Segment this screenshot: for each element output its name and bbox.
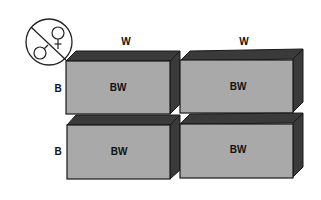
male-female-symbol-icon — [26, 19, 72, 65]
cell-box: BW — [180, 113, 303, 178]
column-header: W — [121, 36, 131, 47]
cell-box: BW — [66, 51, 180, 114]
row-header: B — [54, 146, 61, 157]
column-header: W — [239, 36, 249, 47]
cell-label: BW — [230, 144, 247, 155]
cell-box: BW — [180, 49, 303, 113]
punnett-square-diagram: W W B B BW BW BW BW — [0, 0, 321, 200]
cell-box: BW — [67, 115, 180, 179]
cell-label: BW — [110, 82, 127, 93]
cell-label: BW — [230, 81, 247, 92]
row-header: B — [54, 83, 61, 94]
cell-label: BW — [111, 146, 128, 157]
